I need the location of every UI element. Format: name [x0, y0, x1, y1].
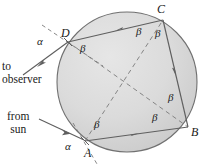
point-label-B: B	[191, 126, 198, 138]
angle-label-beta-at-A: β	[94, 119, 99, 130]
from-sun-line1: from	[7, 110, 29, 123]
angle-label-beta-at-B-upper: β	[168, 92, 173, 103]
to-observer-label: to observer	[2, 60, 42, 85]
angle-label-alpha-at-A: α	[65, 141, 71, 152]
angle-label-beta-at-B-lower: β	[152, 112, 157, 123]
angle-label-beta-at-C-left: β	[136, 26, 141, 37]
to-observer-line1: to	[2, 60, 42, 73]
ray-incident-arrowhead	[62, 130, 71, 136]
point-label-A: A	[84, 147, 91, 159]
point-label-C: C	[157, 3, 165, 15]
angle-label-beta-at-C-right: β	[155, 28, 160, 39]
to-observer-line2: observer	[2, 73, 42, 86]
raindrop-refraction-figure: D C B A α β β β β β β α to observer from…	[0, 0, 208, 167]
from-sun-label: from sun	[7, 110, 29, 135]
point-label-D: D	[61, 27, 70, 39]
from-sun-line2: sun	[7, 123, 29, 136]
angle-label-alpha-at-D: α	[37, 36, 43, 47]
angle-label-beta-at-D: β	[80, 43, 85, 54]
